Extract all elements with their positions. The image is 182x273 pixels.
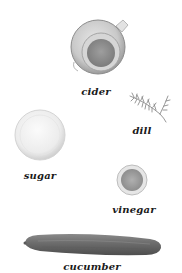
ingredients-diagram: cider dill sugar	[0, 0, 182, 273]
cider-cup-image	[68, 16, 130, 78]
dill-sprig-image	[128, 92, 172, 124]
dill-label: dill	[132, 125, 151, 136]
cucumber-label: cucumber	[63, 261, 121, 272]
sugar-bowl-image	[14, 109, 66, 161]
cider-label: cider	[81, 86, 111, 97]
cucumber-image	[22, 231, 164, 259]
vinegar-label: vinegar	[112, 204, 155, 215]
sugar-label: sugar	[24, 170, 57, 181]
vinegar-bowl-image	[116, 164, 148, 196]
